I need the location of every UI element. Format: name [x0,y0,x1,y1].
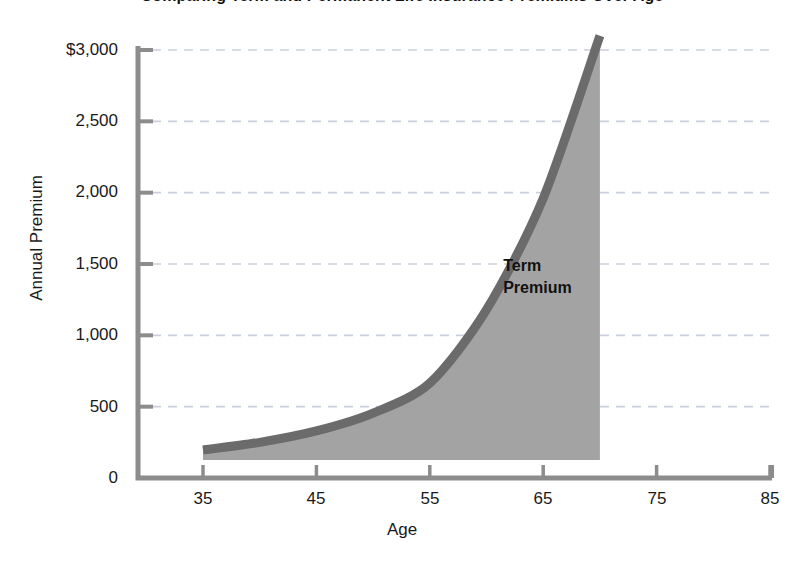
term-premium-annotation-line2: Premium [503,277,571,299]
term-premium-annotation-line1: Term [503,255,571,277]
term-premium-annotation: Term Premium [503,255,571,298]
area-series-term-premium [203,36,600,460]
chart-container: Comparing Term and Permanent Life Insura… [0,0,804,568]
plot-area [0,0,804,568]
